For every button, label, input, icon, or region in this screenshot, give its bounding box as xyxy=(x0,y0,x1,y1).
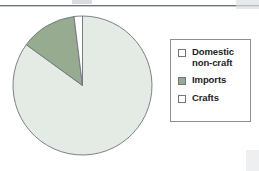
page-rule-line-shadow xyxy=(0,6,259,7)
legend-label-crafts: Crafts xyxy=(192,93,219,104)
pie-chart xyxy=(12,15,153,156)
pie-chart-svg xyxy=(12,15,153,156)
legend-item-domestic-non-craft[interactable]: Domestic non-craft xyxy=(178,47,250,68)
scan-artifact-top-right xyxy=(236,0,259,9)
legend-item-imports[interactable]: Imports xyxy=(178,75,250,86)
legend-label-domestic-non-craft: Domestic non-craft xyxy=(192,47,234,68)
legend-swatch-domestic-non-craft xyxy=(178,49,186,57)
scan-artifact-bottom-right xyxy=(246,150,259,171)
legend-swatch-crafts xyxy=(178,95,186,103)
chart-legend: Domestic non-craft Imports Crafts xyxy=(170,39,251,122)
legend-label-imports: Imports xyxy=(192,75,226,86)
legend-swatch-imports xyxy=(178,77,186,85)
scan-artifact-top xyxy=(72,0,92,4)
legend-item-crafts[interactable]: Crafts xyxy=(178,93,250,104)
pie-chart-figure: Domestic non-craft Imports Crafts xyxy=(0,0,259,171)
